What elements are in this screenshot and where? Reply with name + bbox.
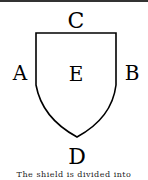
label-top: C xyxy=(68,8,85,33)
shield-diagram: C A B E D xyxy=(0,0,148,180)
caption: The shield is divided into xyxy=(0,170,148,179)
label-right: B xyxy=(125,61,140,85)
label-bottom: D xyxy=(68,144,86,169)
label-left: A xyxy=(12,61,28,85)
label-center: E xyxy=(69,62,84,86)
